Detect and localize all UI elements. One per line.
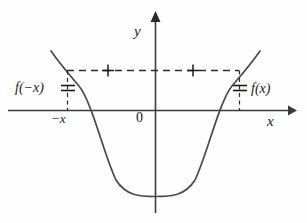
dashed-guide-cross-tick-left <box>102 65 114 77</box>
y-axis-label: y <box>134 24 141 39</box>
x-axis-arrowhead <box>288 106 297 116</box>
math-figure: y x 0 −x f(−x) f(x) <box>0 0 307 223</box>
y-axis <box>151 11 161 213</box>
origin-label: 0 <box>136 111 143 125</box>
f-x-label: f(x) <box>251 82 270 96</box>
neg-x-tick-label: −x <box>51 112 66 125</box>
x-axis-label: x <box>267 114 274 129</box>
figure-canvas <box>0 0 307 223</box>
f-neg-x-label: f(−x) <box>15 81 44 95</box>
horizontal-dashed-guide <box>67 65 239 77</box>
vertical-dashed-segment-left <box>61 71 75 111</box>
y-axis-arrowhead <box>151 11 161 22</box>
dashed-guide-cross-tick-right <box>187 65 199 77</box>
